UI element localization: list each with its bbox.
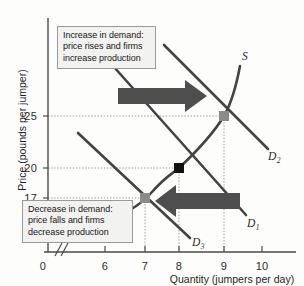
curve-label-demand-original-letter: D	[246, 217, 256, 229]
x-tick-label-7: 7	[142, 260, 148, 272]
tick-labels: 25 20 17 0 6 7 8 9 10	[24, 110, 268, 272]
marker-equilibrium-q9-p25	[219, 111, 229, 121]
y-axis-title: Price (pounds per jumper)	[16, 69, 28, 190]
curve-label-supply: S	[242, 50, 248, 62]
x-axis-title: Quantity (jumpers per day)	[170, 273, 294, 285]
arrow-decrease-in-demand	[155, 185, 240, 217]
origin-label: 0	[40, 260, 46, 272]
x-tick-label-8: 8	[176, 260, 182, 272]
supply-demand-diagram: 25 20 17 0 6 7 8 9 10 S D2 D1 D3 Price	[0, 0, 304, 286]
x-tick-label-9: 9	[221, 260, 227, 272]
curve-label-demand-decreased-letter: D	[191, 236, 201, 248]
curve-label-demand-increased-subscript: 2	[277, 156, 281, 165]
curve-label-demand-increased: D2	[267, 150, 281, 165]
marker-equilibrium-q8-p20	[174, 163, 184, 173]
callout-decrease-in-demand: Decrease in demand: price falls and firm…	[22, 200, 133, 243]
shift-arrows	[118, 80, 240, 217]
marker-equilibrium-q7-p17	[140, 193, 150, 203]
x-tick-label-10: 10	[256, 260, 269, 272]
curve-label-demand-decreased-subscript: 3	[200, 242, 205, 251]
x-tick-label-6: 6	[102, 260, 108, 272]
axis-break-stroke-2	[61, 243, 68, 256]
curve-label-demand-original: D1	[246, 217, 260, 232]
axis-break-stroke-1	[55, 243, 62, 256]
callout-increase-in-demand: Increase in demand: price rises and firm…	[57, 26, 156, 69]
curve-label-demand-original-subscript: 1	[256, 223, 260, 232]
curve-label-demand-decreased: D3	[191, 236, 205, 251]
curve-label-demand-increased-letter: D	[267, 150, 277, 162]
